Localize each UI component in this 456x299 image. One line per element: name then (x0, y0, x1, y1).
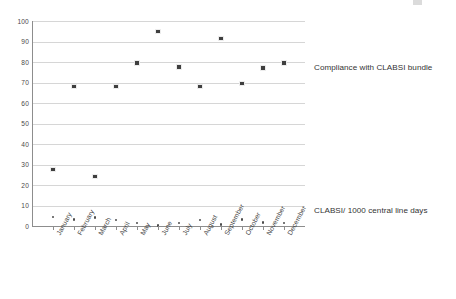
gridline-40 (32, 144, 305, 145)
datapoint-compliance-june (155, 29, 160, 34)
datapoint-compliance-february (71, 84, 76, 89)
top-edge-artifact (413, 0, 422, 5)
plot-area (32, 21, 305, 226)
y-tick-label-90: 90 (3, 38, 29, 45)
datapoint-compliance-november (260, 65, 265, 70)
y-tick-label-70: 70 (3, 79, 29, 86)
x-tick-mark-january (53, 226, 54, 230)
y-axis-tick-labels: 0102030405060708090100 (0, 0, 29, 299)
datapoint-rate-april (115, 219, 117, 221)
y-tick-label-0: 0 (3, 223, 29, 230)
datapoint-rate-july (178, 222, 180, 224)
datapoint-compliance-january (50, 167, 55, 172)
datapoint-compliance-april (113, 84, 118, 89)
y-tick-label-50: 50 (3, 120, 29, 127)
gridline-10 (32, 206, 305, 207)
x-tick-mark-december (284, 226, 285, 230)
datapoint-compliance-december (281, 60, 286, 65)
datapoint-rate-october (241, 218, 243, 220)
y-tick-label-20: 20 (3, 182, 29, 189)
y-tick-label-80: 80 (3, 59, 29, 66)
datapoint-compliance-august (197, 84, 202, 89)
datapoint-rate-august (199, 219, 201, 221)
y-tick-label-60: 60 (3, 100, 29, 107)
datapoint-rate-december (283, 222, 285, 224)
y-tick-label-40: 40 (3, 141, 29, 148)
series-label-rate: CLABSI/ 1000 central line days (314, 206, 428, 216)
x-tick-mark-september (221, 226, 222, 230)
gridline-80 (32, 62, 305, 63)
y-tick-label-100: 100 (3, 18, 29, 25)
clabsi-scatter-chart: 0102030405060708090100 JanuaryFebruaryMa… (0, 0, 456, 299)
y-tick-label-30: 30 (3, 161, 29, 168)
datapoint-compliance-may (134, 60, 139, 65)
datapoint-compliance-march (92, 174, 97, 179)
x-tick-mark-april (116, 226, 117, 230)
y-tick-label-10: 10 (3, 202, 29, 209)
datapoint-rate-february (73, 218, 75, 220)
gridline-100 (32, 21, 305, 22)
gridline-50 (32, 124, 305, 125)
datapoint-compliance-october (239, 81, 244, 86)
datapoint-rate-january (52, 216, 54, 218)
gridline-30 (32, 165, 305, 166)
x-tick-mark-february (74, 226, 75, 230)
gridline-90 (32, 42, 305, 43)
x-tick-mark-november (263, 226, 264, 230)
x-tick-mark-march (95, 226, 96, 230)
x-tick-mark-october (242, 226, 243, 230)
datapoint-compliance-july (176, 64, 181, 69)
datapoint-rate-may (136, 222, 138, 224)
x-tick-mark-may (137, 226, 138, 230)
gridline-60 (32, 103, 305, 104)
x-tick-mark-june (158, 226, 159, 230)
x-tick-mark-july (179, 226, 180, 230)
datapoint-rate-march (94, 216, 96, 218)
gridline-20 (32, 185, 305, 186)
datapoint-compliance-september (218, 36, 223, 41)
x-tick-mark-august (200, 226, 201, 230)
series-label-compliance: Compliance with CLABSI bundle (314, 63, 432, 73)
datapoint-rate-november (262, 221, 264, 223)
y-axis-line (32, 21, 33, 227)
